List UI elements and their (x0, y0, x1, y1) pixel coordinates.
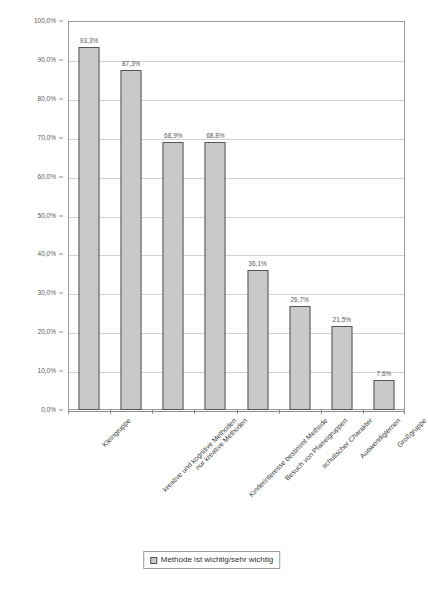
bar-value-label: 68,9% (164, 132, 182, 140)
bars-group: 93,3%87,3%68,9%68,8%36,1%26,7%21,5%7,6% (68, 21, 405, 410)
x-axis-tick-mark (237, 410, 238, 414)
y-axis-tick-mark (59, 21, 63, 22)
bar-slot: 87,3% (110, 21, 152, 410)
x-axis-tick-mark (110, 410, 111, 414)
y-axis-tick-label: 70,0% (38, 134, 56, 142)
y-axis-tick-label: 80,0% (38, 95, 56, 103)
bar-value-label: 93,3% (80, 37, 98, 45)
y-axis-tick-label: 40,0% (38, 250, 56, 258)
y-axis-tick-label: 30,0% (38, 289, 56, 297)
x-axis-ticks (68, 410, 405, 415)
bar-value-label: 68,8% (206, 132, 224, 140)
bar (331, 326, 352, 410)
bar-slot: 26,7% (279, 21, 321, 410)
y-axis-tick-mark (59, 371, 63, 372)
bar (205, 142, 226, 410)
x-axis-tick-mark (68, 410, 69, 414)
x-axis-category-label: Kleingruppe (100, 416, 133, 449)
bar-value-label: 87,3% (122, 60, 140, 68)
y-axis-tick-mark (59, 332, 63, 333)
y-axis-tick-mark (59, 410, 63, 411)
bar (79, 47, 100, 410)
bar-value-label: 21,5% (333, 316, 351, 324)
legend-item-label: Methode ist wichtig/sehr wichtig (161, 555, 274, 565)
bar (247, 270, 268, 410)
x-axis: Kleingruppekreative und kognitive Method… (68, 416, 405, 536)
y-axis-tick-mark (59, 137, 63, 138)
x-axis-tick-mark (404, 410, 405, 414)
x-axis-tick-mark (321, 410, 322, 414)
legend-swatch-icon (150, 557, 157, 564)
chart-legend: Methode ist wichtig/sehr wichtig (143, 551, 281, 569)
bar-value-label: 36,1% (248, 260, 266, 268)
y-axis-tick-label: 100,0% (34, 17, 56, 25)
bar-slot: 7,6% (363, 21, 405, 410)
bar (163, 142, 184, 410)
y-axis-tick-label: 50,0% (38, 212, 56, 220)
x-axis-tick-mark (152, 410, 153, 414)
x-axis-tick-mark (279, 410, 280, 414)
y-axis-tick-mark (59, 59, 63, 60)
bar-slot: 68,8% (194, 21, 236, 410)
x-axis-category-label: kreative und kognitive Methoden (161, 416, 239, 494)
y-axis-tick-label: 0,0% (41, 406, 56, 414)
y-axis-tick-mark (59, 293, 63, 294)
y-axis-tick-mark (59, 176, 63, 177)
bar-slot: 93,3% (68, 21, 110, 410)
bar-slot: 21,5% (321, 21, 363, 410)
bar-slot: 36,1% (237, 21, 279, 410)
y-axis-tick-label: 20,0% (38, 328, 56, 336)
y-axis-tick-label: 10,0% (38, 367, 56, 375)
y-axis-tick-mark (59, 98, 63, 99)
x-axis-category-label: Kinderinteresse bestimmt Methode (247, 416, 330, 499)
bar (373, 380, 394, 410)
bar (121, 70, 142, 410)
bar-value-label: 26,7% (290, 296, 308, 304)
y-axis-tick-mark (59, 254, 63, 255)
bar-value-label: 7,6% (377, 370, 392, 378)
bar (289, 306, 310, 410)
x-axis-tick-mark (194, 410, 195, 414)
y-axis-tick-label: 60,0% (38, 173, 56, 181)
y-axis-tick-label: 90,0% (38, 56, 56, 64)
x-axis-tick-mark (363, 410, 364, 414)
y-axis: 0,0%10,0%20,0%30,0%40,0%50,0%60,0%70,0%8… (0, 21, 63, 410)
y-axis-tick-mark (59, 215, 63, 216)
bar-slot: 68,9% (152, 21, 194, 410)
